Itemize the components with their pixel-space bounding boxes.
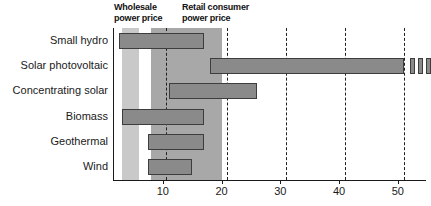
x-tick-label-30: 30 — [265, 185, 295, 198]
x-tick-mark-20 — [222, 180, 223, 184]
x-tick-label-20: 20 — [207, 185, 237, 198]
x-tick-mark-50 — [398, 180, 399, 184]
x-tick-mark-30 — [280, 180, 281, 184]
category-label-concentrating-solar: Concentrating solar — [0, 84, 108, 97]
x-tick-label-50: 50 — [383, 185, 413, 198]
x-tick-mark-40 — [339, 180, 340, 184]
category-label-geothermal: Geothermal — [0, 135, 108, 148]
category-label-solar-photovoltaic: Solar photovoltaic — [0, 59, 108, 72]
category-label-biomass: Biomass — [0, 110, 108, 123]
category-label-wind: Wind — [0, 160, 108, 173]
x-tick-label-40: 40 — [324, 185, 354, 198]
x-tick-label-10: 10 — [148, 185, 178, 198]
category-label-small-hydro: Small hydro — [0, 34, 108, 47]
x-tick-mark-10 — [163, 180, 164, 184]
